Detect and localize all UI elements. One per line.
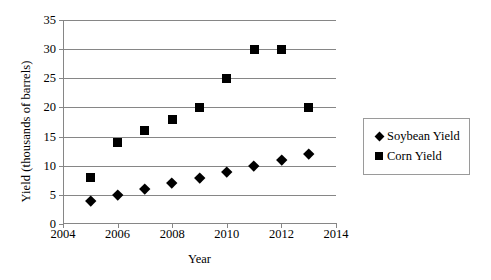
diamond-marker-icon [373, 129, 387, 143]
gridline [63, 78, 336, 79]
data-point-square [250, 45, 259, 54]
y-axis-tick-mark [59, 78, 64, 79]
data-point-diamond [194, 172, 205, 183]
legend-item-label: Corn Yield [387, 150, 442, 163]
y-axis-tick-label: 30 [22, 43, 56, 56]
y-axis-tick-label: 35 [22, 14, 56, 27]
data-point-diamond [140, 184, 151, 195]
legend-item[interactable]: Corn Yield [373, 146, 460, 166]
x-axis-tick-label: 2008 [149, 228, 195, 241]
data-point-square [195, 103, 204, 112]
x-axis-tick-label: 2012 [258, 228, 304, 241]
gridline [63, 49, 336, 50]
y-axis-tick-mark [59, 20, 64, 21]
data-point-diamond [167, 178, 178, 189]
x-axis-tick-labels: 200420062008201020122014 [63, 228, 336, 246]
gridline [63, 195, 336, 196]
y-axis-line [63, 20, 64, 224]
y-axis-tick-label: 10 [22, 160, 56, 173]
x-axis-tick-label: 2014 [313, 228, 359, 241]
y-axis-tick-label: 25 [22, 72, 56, 85]
y-axis-tick-mark [59, 107, 64, 108]
data-point-diamond [221, 166, 232, 177]
x-axis-tick-label: 2006 [95, 228, 141, 241]
data-point-diamond [112, 190, 123, 201]
chart-legend: Soybean YieldCorn Yield [363, 118, 470, 175]
x-axis-title: Year [63, 252, 336, 267]
y-axis-tick-mark [59, 195, 64, 196]
data-point-square [222, 74, 231, 83]
data-point-square [113, 138, 122, 147]
x-axis-tick-label: 2004 [40, 228, 86, 241]
square-marker-icon [373, 149, 387, 163]
gridline [63, 166, 336, 167]
data-point-diamond [276, 155, 287, 166]
y-axis-tick-mark [59, 137, 64, 138]
gridline [63, 20, 336, 21]
plot-area [63, 20, 336, 224]
y-axis-tick-label: 15 [22, 131, 56, 144]
data-point-diamond [249, 160, 260, 171]
y-axis-tick-mark [59, 166, 64, 167]
y-axis-tick-label: 20 [22, 101, 56, 114]
data-point-square [168, 115, 177, 124]
data-point-square [304, 103, 313, 112]
y-axis-tick-label: 5 [22, 189, 56, 202]
gridline [63, 137, 336, 138]
data-point-square [86, 173, 95, 182]
x-axis-line [63, 223, 336, 224]
data-point-square [140, 126, 149, 135]
legend-item-label: Soybean Yield [387, 130, 460, 143]
y-axis-tick-mark [59, 49, 64, 50]
x-axis-tick-label: 2010 [204, 228, 250, 241]
legend-item[interactable]: Soybean Yield [373, 126, 460, 146]
data-point-diamond [85, 195, 96, 206]
scatter-chart: Yield (thousands of barrels) 05101520253… [0, 0, 491, 280]
data-point-square [277, 45, 286, 54]
data-point-diamond [303, 149, 314, 160]
